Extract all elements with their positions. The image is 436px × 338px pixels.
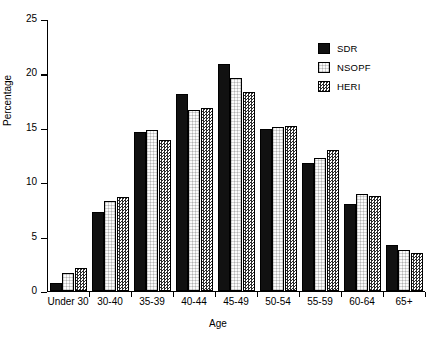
bar-group xyxy=(176,19,213,291)
y-axis-tick: 20 xyxy=(41,74,47,75)
bar xyxy=(92,212,104,290)
category-label: Under 30 xyxy=(47,296,89,307)
x-axis-tick xyxy=(425,292,426,297)
bar xyxy=(369,196,381,291)
y-axis-tick-label: 15 xyxy=(15,122,37,134)
bar xyxy=(75,268,87,291)
bar xyxy=(134,132,146,291)
bar xyxy=(398,250,410,290)
category-label: 55-59 xyxy=(299,296,341,307)
bar-group xyxy=(50,19,87,291)
bar xyxy=(218,64,230,290)
x-axis-title: Age xyxy=(0,318,436,329)
bar xyxy=(344,204,356,291)
bar xyxy=(230,78,242,290)
bar xyxy=(62,273,74,290)
bar xyxy=(104,201,116,290)
category-label: 60-64 xyxy=(341,296,383,307)
legend-item: NSOPF xyxy=(318,59,371,75)
category-label: 30-40 xyxy=(89,296,131,307)
y-axis-tick: 25 xyxy=(41,20,47,21)
bar-chart: Percentage Age 0510152025 Under 3030-403… xyxy=(0,0,436,338)
y-axis-tick-label: 25 xyxy=(15,13,37,25)
bar-group xyxy=(92,19,129,291)
bar xyxy=(411,253,423,291)
bar xyxy=(386,245,398,291)
category-label: 65+ xyxy=(383,296,425,307)
category-label: 50-54 xyxy=(257,296,299,307)
y-axis-tick-label: 20 xyxy=(15,67,37,79)
bar xyxy=(159,140,171,290)
legend: SDRNSOPFHERI xyxy=(318,40,371,97)
x-axis-line xyxy=(47,291,425,292)
y-axis-title: Percentage xyxy=(2,75,13,126)
legend-label: NSOPF xyxy=(337,62,371,73)
bar xyxy=(285,126,297,290)
legend-swatch-icon xyxy=(318,62,330,73)
legend-label: SDR xyxy=(337,43,358,54)
bar xyxy=(314,158,326,291)
bar xyxy=(50,283,62,291)
legend-item: HERI xyxy=(318,78,371,94)
bar xyxy=(260,129,272,291)
bar-group xyxy=(260,19,297,291)
bar-group xyxy=(218,19,255,291)
legend-item: SDR xyxy=(318,40,371,56)
legend-label: HERI xyxy=(337,81,361,92)
category-label: 35-39 xyxy=(131,296,173,307)
bar xyxy=(201,108,213,291)
y-axis-tick: 5 xyxy=(41,238,47,239)
y-axis-tick: 10 xyxy=(41,183,47,184)
bar xyxy=(146,130,158,291)
bar xyxy=(272,127,284,290)
category-label: 40-44 xyxy=(173,296,215,307)
legend-swatch-icon xyxy=(318,81,330,92)
bar xyxy=(243,92,255,291)
y-axis-line xyxy=(47,20,48,292)
category-label: 45-49 xyxy=(215,296,257,307)
bar xyxy=(176,94,188,291)
legend-swatch-icon xyxy=(318,43,330,54)
bar xyxy=(302,163,314,290)
bar xyxy=(356,194,368,291)
bar-group xyxy=(386,19,423,291)
y-axis-tick: 15 xyxy=(41,129,47,130)
y-axis-tick-label: 5 xyxy=(15,231,37,243)
bar xyxy=(327,150,339,290)
bar xyxy=(117,197,129,291)
y-axis-tick-label: 0 xyxy=(15,285,37,297)
y-axis-tick: 0 xyxy=(41,292,47,293)
bar-group xyxy=(134,19,171,291)
y-axis-tick-label: 10 xyxy=(15,176,37,188)
bar xyxy=(188,110,200,291)
